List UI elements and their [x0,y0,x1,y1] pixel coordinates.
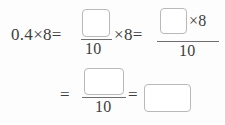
equals-sign-line2-second: = [128,86,138,103]
math-worksheet-canvas: 0.4×8= 10 ×8= ×8 10 = 10 = [0,0,225,125]
equals-sign-line2-first: = [60,86,70,103]
answer-box-final-result[interactable] [144,84,191,112]
answer-box-numerator-1[interactable] [82,9,110,37]
answer-box-numerator-3[interactable] [84,68,124,95]
expression-middle-operator: ×8= [114,26,143,43]
expression-left-hand-side: 0.4×8= [11,26,62,43]
answer-box-numerator-2[interactable] [160,8,187,34]
fraction-denominator-3: 10 [95,99,112,115]
numerator-multiplier-suffix: ×8 [189,13,207,29]
fraction-denominator-2: 10 [179,43,196,59]
fraction-denominator-1: 10 [85,41,102,57]
